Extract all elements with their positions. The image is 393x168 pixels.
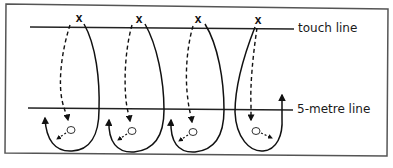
ball-pickup-path (118, 134, 127, 140)
player-marker-3: x (195, 13, 202, 25)
ball-icon (67, 127, 75, 134)
ball-icon (252, 128, 260, 135)
ball-pickup-path (57, 133, 66, 139)
player-marker-4: x (255, 14, 262, 26)
ball-pass-path (186, 26, 193, 122)
five-metre-line (28, 108, 293, 110)
ball-pickup-path (261, 133, 272, 138)
player-marker-1: x (76, 12, 83, 24)
five-metre-line-label: 5-metre line (297, 102, 370, 116)
ball-icon (128, 128, 136, 135)
player-run-path (171, 24, 224, 152)
ball-icon (189, 129, 197, 136)
player-run-path (109, 24, 164, 152)
loop-3 (171, 24, 224, 152)
ball-pickup-path (179, 135, 188, 141)
ball-pass-path (125, 25, 132, 121)
loop-2 (109, 24, 164, 152)
touch-line-label: touch line (298, 21, 357, 35)
ball-pass-path (60, 25, 70, 120)
player-marker-2: x (136, 13, 143, 25)
ball-pass-path (251, 28, 257, 120)
